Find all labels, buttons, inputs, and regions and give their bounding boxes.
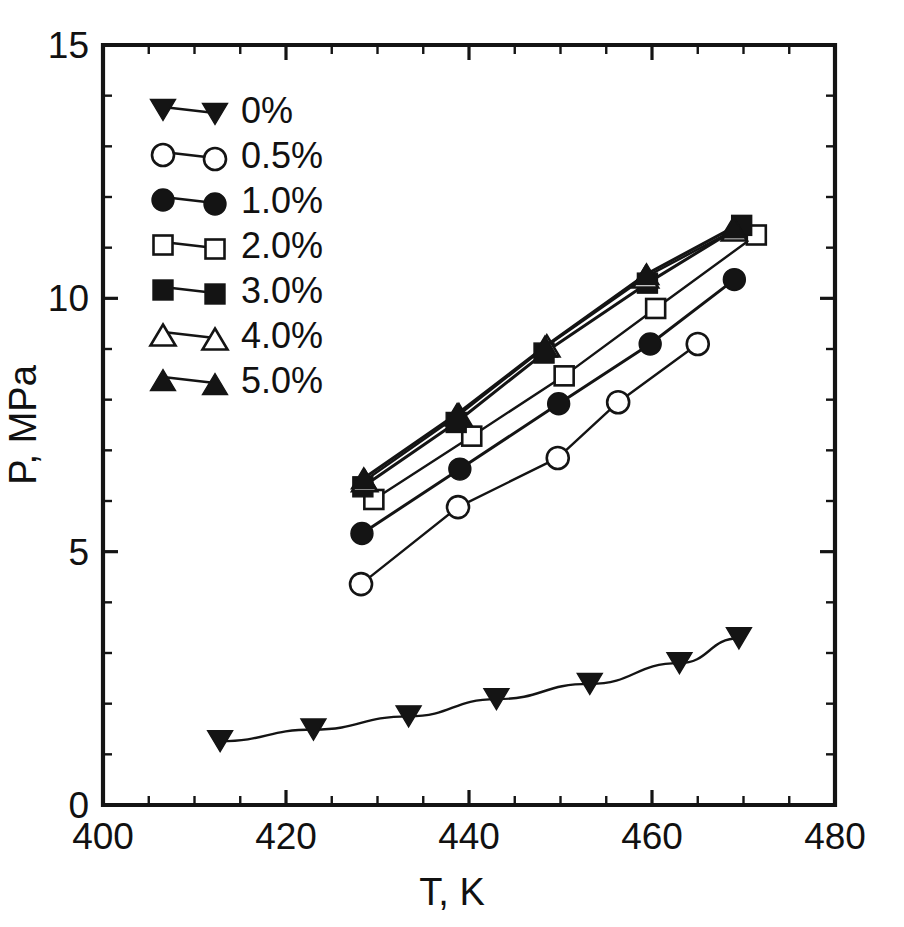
data-marker-filled-triangle-up xyxy=(151,370,176,391)
x-axis-title: T, K xyxy=(419,871,484,913)
x-tick-label: 420 xyxy=(255,816,317,857)
legend-item-30[interactable]: 3.0% xyxy=(153,270,323,311)
data-marker-open-circle xyxy=(687,333,709,355)
data-marker-filled-circle xyxy=(351,522,373,544)
data-marker-open-square xyxy=(646,299,665,318)
y-axis-title: P, MPa xyxy=(2,364,44,485)
y-tick-label: 0 xyxy=(68,785,89,826)
data-marker-open-square xyxy=(555,366,574,385)
data-marker-filled-circle xyxy=(449,458,471,480)
legend-label: 0% xyxy=(241,90,293,131)
data-marker-filled-triangle-down xyxy=(203,104,228,125)
chart-legend: 0%0.5%1.0%2.0%3.0%4.0%5.0% xyxy=(151,90,324,401)
legend-item-40[interactable]: 4.0% xyxy=(151,315,324,356)
y-tick-label: 15 xyxy=(48,25,89,66)
legend-label: 4.0% xyxy=(241,315,323,356)
series-line xyxy=(361,344,698,584)
data-marker-open-circle xyxy=(350,573,372,595)
series-line xyxy=(220,638,739,741)
legend-item-05[interactable]: 0.5% xyxy=(152,135,323,176)
legend-label: 0.5% xyxy=(241,135,323,176)
data-marker-open-circle xyxy=(152,144,174,166)
legend-label: 5.0% xyxy=(241,360,323,401)
data-marker-filled-circle xyxy=(548,393,570,415)
data-marker-filled-circle xyxy=(204,193,226,215)
data-marker-filled-square xyxy=(153,280,173,300)
data-marker-open-square xyxy=(154,236,173,255)
figure-container: 400420440460480051015 T, KP, MPa 0%0.5%1… xyxy=(0,0,904,927)
legend-item-20[interactable]: 2.0% xyxy=(154,225,324,266)
series-10 xyxy=(351,269,745,545)
data-marker-open-square xyxy=(206,240,225,259)
data-marker-open-circle xyxy=(204,148,226,170)
legend-item-10[interactable]: 1.0% xyxy=(152,180,323,221)
data-marker-filled-square xyxy=(205,284,225,304)
figure-caption-strip xyxy=(0,911,904,927)
data-marker-open-circle xyxy=(447,496,469,518)
data-marker-open-triangle-up xyxy=(151,325,176,346)
x-tick-label: 480 xyxy=(804,816,866,857)
pressure-temperature-chart: 400420440460480051015 T, KP, MPa 0%0.5%1… xyxy=(0,0,904,927)
data-marker-filled-triangle-up xyxy=(203,374,228,395)
legend-label: 1.0% xyxy=(241,180,323,221)
legend-label: 3.0% xyxy=(241,270,323,311)
legend-item-50[interactable]: 5.0% xyxy=(151,360,324,401)
y-tick-label: 10 xyxy=(48,278,89,319)
data-marker-open-triangle-up xyxy=(203,329,228,350)
data-marker-filled-triangle-down xyxy=(151,100,176,121)
data-marker-open-circle xyxy=(607,391,629,413)
legend-label: 2.0% xyxy=(241,225,323,266)
legend-item-0[interactable]: 0% xyxy=(151,90,294,131)
data-marker-filled-circle xyxy=(723,269,745,291)
y-tick-label: 5 xyxy=(68,532,89,573)
series-0 xyxy=(208,628,752,752)
x-tick-label: 440 xyxy=(438,816,500,857)
data-marker-open-circle xyxy=(547,447,569,469)
data-marker-filled-circle xyxy=(639,333,661,355)
x-tick-label: 460 xyxy=(621,816,683,857)
series-05 xyxy=(350,333,709,595)
data-marker-filled-circle xyxy=(152,189,174,211)
